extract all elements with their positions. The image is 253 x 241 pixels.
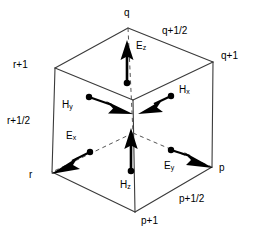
axis-label-p-half: p+1/2 [179,194,204,204]
yee-cell-figure: q q+1/2 q+1 r+1 r+1/2 r p p+1/2 p+1 Ez H… [0,0,253,241]
axis-label-q-half: q+1/2 [162,26,187,36]
axis-label-r-plus-1: r+1 [13,60,28,70]
field-label-Hy-sub: y [69,103,73,110]
field-label-Ey-sub: y [171,164,175,171]
axis-label-p: p [219,163,225,173]
edge-lefttop-leftbottom [52,68,55,172]
field-label-Hx-sub: x [186,88,190,95]
vector-Ey-origin-dot [168,147,174,153]
vector-Hx-head [138,100,163,114]
edge-lefttop-fronttop [55,68,133,100]
edge-fronttop-frontbottom [133,100,135,212]
edge-backtop-lefttop [55,28,128,68]
field-label-Ez: Ez [136,41,146,51]
field-label-Ez-sub: z [143,44,147,51]
vector-Ex-origin-dot [87,149,93,155]
field-label-Hx: Hx [179,85,190,95]
vector-Hy-shaft [89,97,112,105]
vector-Ex-head [51,157,80,174]
axis-label-q-plus-1: q+1 [221,51,238,61]
field-label-Ey: Ey [164,161,174,171]
vector-Hz [124,128,137,174]
vector-Hy-origin-dot [86,94,92,100]
axis-label-r: r [29,170,32,180]
vector-Ez [121,40,134,86]
field-label-Hz: Hz [120,180,131,190]
cube-drawing [0,0,253,241]
edge-leftbottom-frontbottom [52,172,135,212]
field-label-Ex-base: E [66,130,73,141]
axis-label-q: q [124,8,130,18]
vector-Ey-head [184,152,213,168]
field-label-Ez-base: E [136,40,143,51]
field-label-Ex-sub: x [73,134,77,141]
vector-Ey [168,147,213,168]
field-label-Ey-base: E [164,160,171,171]
vector-Ez-origin-dot [124,80,131,87]
vector-Hz-origin-dot [128,168,135,175]
vector-Hy-head [106,101,133,114]
vector-Hx-origin-dot [168,93,174,99]
field-label-Ex: Ex [66,131,76,141]
field-label-Hy: Hy [62,100,73,110]
axis-label-r-half: r+1/2 [7,116,30,126]
axis-label-p-plus-1: p+1 [141,216,158,226]
vector-Ex [51,149,93,174]
vector-Hx [138,93,174,114]
field-label-Hz-sub: z [127,183,131,190]
edge-rightbottom-frontbottom [135,167,212,212]
edge-righttop-rightbottom [212,62,213,167]
